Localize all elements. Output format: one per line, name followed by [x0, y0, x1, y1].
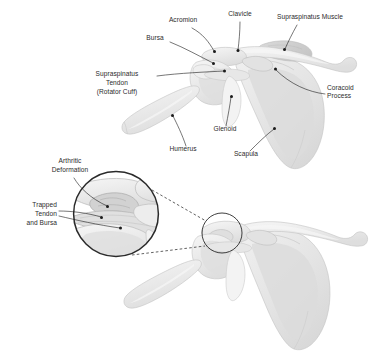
- anatomical-figure: Acromion Clavicle Supraspinatus Muscle B…: [0, 0, 371, 356]
- magnified-glenoid: [146, 230, 164, 268]
- glenoid-shape: [222, 76, 241, 127]
- leader-dot-scapula: [273, 127, 276, 130]
- label-supraspinatus-tendon-line1: Supraspinatus: [96, 70, 139, 78]
- leader-dot-clavicle: [237, 49, 240, 52]
- leader-dot-bursa: [212, 62, 215, 65]
- zoom-link-upper: [152, 190, 206, 221]
- label-clavicle: Clavicle: [228, 10, 252, 17]
- leader-dot-coracoid-process: [274, 68, 277, 71]
- label-supraspinatus-muscle: Supraspinatus Muscle: [277, 13, 343, 21]
- leader-dot-supraspinatus-muscle: [283, 48, 286, 51]
- magnifier-contents: [68, 177, 186, 273]
- label-supraspinatus-tendon-line3: (Rotator Cuff): [97, 88, 138, 96]
- leader-dot-trapped-tendon-lower: [119, 227, 122, 230]
- leader-dot-supraspinatus-tendon: [223, 70, 226, 73]
- leader-clavicle: [238, 22, 240, 50]
- leader-acromion: [192, 28, 214, 51]
- label-trapped-tendon-line2: Tendon: [35, 210, 57, 217]
- label-acromion: Acromion: [169, 16, 198, 23]
- magnified-scapula-edge: [158, 184, 170, 256]
- leader-dot-arthritic-deformation: [106, 205, 109, 208]
- glenoid-shape-bottom: [226, 250, 245, 301]
- bottom-anatomy-group: [124, 221, 368, 350]
- label-supraspinatus-tendon-line2: Tendon: [106, 79, 128, 86]
- leader-dot-humerus: [171, 114, 174, 117]
- leader-dot-trapped-tendon-upper: [100, 216, 103, 219]
- leader-humerus: [173, 116, 186, 146]
- label-arthritic-deformation-line2: Deformation: [52, 166, 89, 173]
- leader-dot-glenoid: [230, 95, 233, 98]
- label-arthritic-deformation-line1: Arthritic: [59, 157, 82, 164]
- label-coracoid-process-line1: Coracoid: [327, 84, 354, 91]
- label-humerus: Humerus: [169, 145, 197, 152]
- label-glenoid: Glenoid: [213, 125, 236, 132]
- label-trapped-tendon-line3: and Bursa: [26, 219, 57, 226]
- label-coracoid-process-line2: Process: [327, 92, 352, 99]
- label-bursa: Bursa: [146, 34, 164, 41]
- leader-dot-acromion: [213, 50, 216, 53]
- label-scapula: Scapula: [234, 150, 258, 158]
- shoulder-diagram-svg: Acromion Clavicle Supraspinatus Muscle B…: [0, 0, 371, 356]
- label-trapped-tendon-line1: Trapped: [32, 201, 57, 209]
